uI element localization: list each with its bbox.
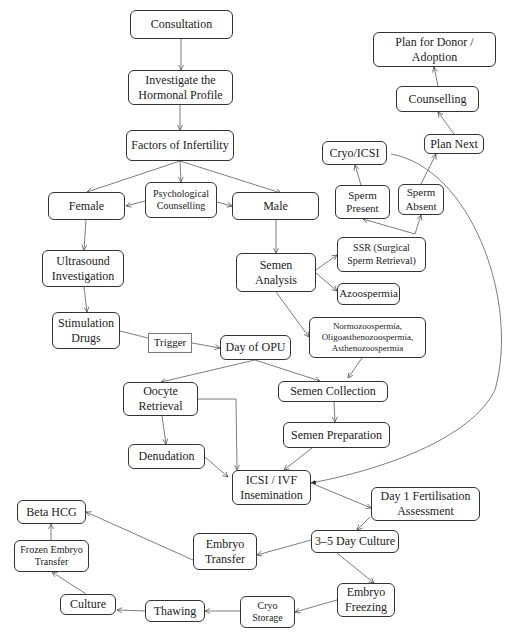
node-semen-analysis: Semen Analysis xyxy=(236,253,316,292)
edge-day1-culture xyxy=(357,517,370,530)
node-psychological-counselling: Psychological Counselling xyxy=(145,182,217,218)
edge-oocyte-denudation xyxy=(162,416,166,444)
node-label: Cryo Storage xyxy=(243,600,292,624)
edge-analysis-ssr xyxy=(316,255,337,270)
node-ssr: SSR (Surgical Sperm Retrieval) xyxy=(337,237,426,272)
node-semen-preparation: Semen Preparation xyxy=(283,422,390,448)
node-label: Investigate the Hormonal Profile xyxy=(131,73,230,102)
node-label: 3–5 Day Culture xyxy=(315,534,395,549)
edge-plannext-counselling xyxy=(438,112,454,134)
node-female: Female xyxy=(48,192,125,220)
edge-collection-preparation xyxy=(334,402,335,422)
edge-psych-female xyxy=(126,201,145,206)
edge-counselling-donor xyxy=(434,67,438,86)
node-label: Factors of Infertility xyxy=(131,138,228,153)
node-frozen-embryo-transfer: Frozen Embryo Transfer xyxy=(14,540,89,572)
node-label: Semen Analysis xyxy=(239,258,313,287)
node-oocyte-retrieval: Oocyte Retrieval xyxy=(123,382,198,416)
node-culture: Culture xyxy=(60,594,116,615)
edge-female-ultrasound xyxy=(84,220,86,250)
node-label: Thawing xyxy=(154,604,197,619)
node-label: Normozoospermia, Oligoasthenozoospermia,… xyxy=(312,321,423,354)
node-normozoospermia: Normozoospermia, Oligoasthenozoospermia,… xyxy=(309,317,426,358)
edge-culture-frozen xyxy=(52,572,86,594)
node-label: Sperm Present xyxy=(338,189,387,216)
node-label: Day 1 Fertilisation Assessment xyxy=(374,489,477,518)
node-label: Embryo Transfer xyxy=(196,537,254,566)
node-label: Trigger xyxy=(154,336,187,349)
node-label: Ultrasound Investigation xyxy=(45,254,121,283)
node-3-5-day-culture: 3–5 Day Culture xyxy=(311,530,399,553)
node-label: Denudation xyxy=(139,449,195,464)
node-label: Semen Collection xyxy=(290,384,376,399)
node-label: Oocyte Retrieval xyxy=(126,384,195,413)
edge-freezing-storage xyxy=(295,600,337,612)
node-stimulation-drugs: Stimulation Drugs xyxy=(52,312,120,349)
node-label: Psychological Counselling xyxy=(148,188,214,212)
node-embryo-freezing: Embryo Freezing xyxy=(337,583,395,617)
edge-absent-plannext xyxy=(421,154,436,184)
edge-trigger-opu xyxy=(192,343,220,348)
node-plan-next: Plan Next xyxy=(424,134,484,154)
edge-present-cryo xyxy=(355,165,361,185)
node-label: Embryo Freezing xyxy=(340,585,392,614)
edge-analysis-normozoospermia xyxy=(276,292,309,337)
node-plan-donor-adoption: Plan for Donor / Adoption xyxy=(373,32,496,67)
node-cryo-storage: Cryo Storage xyxy=(240,596,295,628)
node-label: Stimulation Drugs xyxy=(55,316,117,345)
node-label: Male xyxy=(263,199,288,214)
node-label: Female xyxy=(69,199,104,214)
node-label: Plan Next xyxy=(430,137,478,152)
edge-ultrasound-stimulation xyxy=(84,287,87,312)
edge-normo-collection xyxy=(348,358,362,378)
edge-culture-freezing xyxy=(337,553,374,583)
node-sperm-present: Sperm Present xyxy=(335,185,390,219)
node-thawing: Thawing xyxy=(145,600,205,622)
node-label: Cryo/ICSI xyxy=(329,146,379,161)
node-sperm-absent: Sperm Absent xyxy=(398,184,444,215)
edge-ssr-sperm-present xyxy=(363,219,415,234)
node-hormonal-profile: Investigate the Hormonal Profile xyxy=(128,70,233,105)
node-male: Male xyxy=(232,192,319,220)
edge-preparation-icsi xyxy=(284,448,312,470)
node-denudation: Denudation xyxy=(128,444,205,469)
edge-opu-collection xyxy=(255,360,320,381)
node-label: Culture xyxy=(70,597,106,612)
node-label: ICSI / IVF Insemination xyxy=(235,473,308,502)
node-trigger: Trigger xyxy=(148,333,192,353)
node-label: Plan for Donor / Adoption xyxy=(376,35,493,64)
edge-stimulation-trigger xyxy=(120,331,148,338)
node-embryo-transfer: Embryo Transfer xyxy=(193,533,257,570)
node-day-of-opu: Day of OPU xyxy=(220,335,291,360)
node-label: Frozen Embryo Transfer xyxy=(17,544,86,568)
node-label: Semen Preparation xyxy=(291,428,382,443)
edge-opu-oocyte xyxy=(161,360,255,382)
edge-icsi-day1 xyxy=(311,483,371,508)
node-day1-fertilisation: Day 1 Fertilisation Assessment xyxy=(371,487,480,521)
edge-denudation-icsi xyxy=(205,457,228,477)
node-label: Beta HCG xyxy=(26,505,76,520)
node-label: Azoospermia xyxy=(339,287,398,300)
node-semen-collection: Semen Collection xyxy=(278,381,388,402)
edge-ssr-sperm-absent xyxy=(415,215,421,234)
node-ultrasound-investigation: Ultrasound Investigation xyxy=(42,250,124,287)
node-consultation: Consultation xyxy=(130,10,233,39)
node-label: Counselling xyxy=(408,92,466,107)
node-beta-hcg: Beta HCG xyxy=(17,500,86,524)
edge-factors-psych xyxy=(180,161,181,182)
edge-culture-transfer xyxy=(257,540,311,555)
node-label: SSR (Surgical Sperm Retrieval) xyxy=(340,242,423,266)
edge-thawing-culture xyxy=(117,610,145,611)
node-factors-of-infertility: Factors of Infertility xyxy=(126,130,234,161)
node-label: Day of OPU xyxy=(226,340,286,355)
node-label: Sperm Absent xyxy=(401,186,441,213)
node-counselling: Counselling xyxy=(396,86,479,112)
node-label: Consultation xyxy=(151,17,212,32)
node-azoospermia: Azoospermia xyxy=(337,283,400,305)
edge-psych-male xyxy=(217,202,232,206)
node-icsi-ivf-insemination: ICSI / IVF Insemination xyxy=(232,470,311,505)
edge-transfer-betahcg xyxy=(86,512,193,560)
node-cryo-icsi: Cryo/ICSI xyxy=(322,141,387,165)
edge-analysis-azoospermia xyxy=(316,273,337,291)
